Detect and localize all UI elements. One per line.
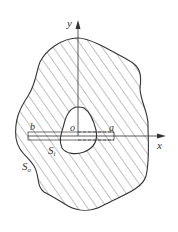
outer-boundary-label: So (22, 160, 32, 174)
point-b-label: b (30, 121, 35, 132)
x-axis-label: x (156, 139, 162, 151)
y-axis-label: y (66, 17, 72, 29)
cross-section-diagram: y x o a b Si So (0, 0, 178, 232)
origin-label: o (70, 122, 75, 133)
x-axis-arrow-icon (157, 134, 166, 139)
y-axis-arrow-icon (76, 20, 81, 29)
point-a-label: a (109, 122, 114, 133)
